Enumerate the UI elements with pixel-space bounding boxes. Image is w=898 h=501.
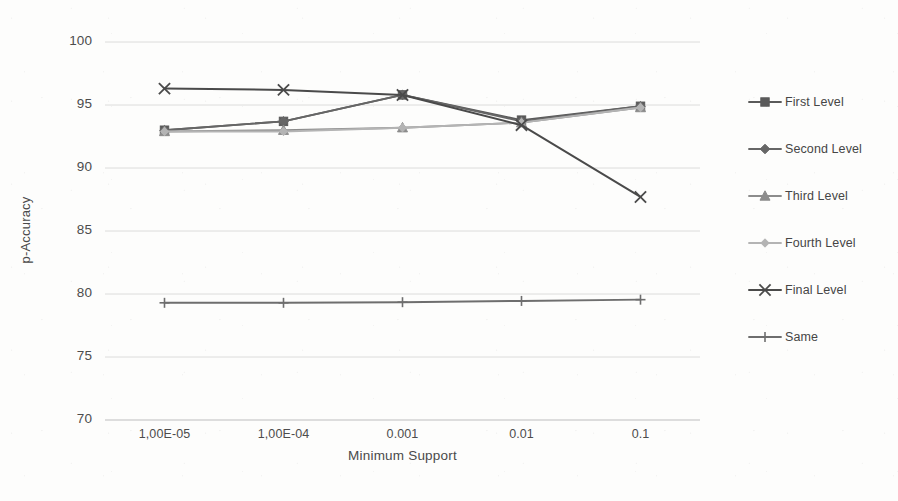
legend-item-second-level[interactable]: Second Level xyxy=(748,125,898,172)
data-point-marker xyxy=(761,238,769,246)
legend-item-label: First Level xyxy=(785,95,844,109)
x-tick-label: 1,00E-05 xyxy=(139,427,191,441)
data-point-marker xyxy=(635,191,646,202)
legend-marker-triangle-icon xyxy=(748,189,782,203)
legend-item-third-level[interactable]: Third Level xyxy=(748,172,898,219)
data-point-marker xyxy=(398,297,408,307)
legend-marker-diamond-light-icon xyxy=(748,236,782,250)
legend-marker-x-icon xyxy=(748,283,782,297)
series-layer xyxy=(159,83,646,308)
legend-item-fourth-level[interactable]: Fourth Level xyxy=(748,219,898,266)
data-point-marker xyxy=(760,332,770,342)
data-point-marker xyxy=(760,144,770,154)
chart-legend: First LevelSecond LevelThird LevelFourth… xyxy=(748,78,898,360)
x-tick-label: 0.001 xyxy=(387,427,419,441)
x-tick-label: 0.1 xyxy=(632,427,650,441)
x-axis-title: Minimum Support xyxy=(105,448,700,463)
legend-item-label: Final Level xyxy=(785,283,847,297)
x-tick-label: 0.01 xyxy=(509,427,534,441)
data-point-marker xyxy=(279,298,289,308)
legend-marker-square-icon xyxy=(748,95,782,109)
series-final-level xyxy=(159,83,646,203)
data-point-marker xyxy=(761,97,769,105)
data-point-marker xyxy=(160,298,170,308)
series-fourth-level xyxy=(160,103,644,135)
legend-item-label: Same xyxy=(785,330,818,344)
legend-item-label: Third Level xyxy=(785,189,848,203)
legend-marker-plus-icon xyxy=(748,330,782,344)
data-point-marker xyxy=(517,296,527,306)
legend-marker-diamond-icon xyxy=(748,142,782,156)
series-same xyxy=(160,295,646,308)
x-tick-label: 1,00E-04 xyxy=(258,427,310,441)
data-point-marker xyxy=(636,295,646,305)
legend-item-label: Fourth Level xyxy=(785,236,856,250)
legend-item-final-level[interactable]: Final Level xyxy=(748,266,898,313)
line-chart: p-Accuracy 100959085807570 1,00E-051,00E… xyxy=(0,0,898,501)
legend-item-same[interactable]: Same xyxy=(748,313,898,360)
legend-item-first-level[interactable]: First Level xyxy=(748,78,898,125)
legend-item-label: Second Level xyxy=(785,142,862,156)
